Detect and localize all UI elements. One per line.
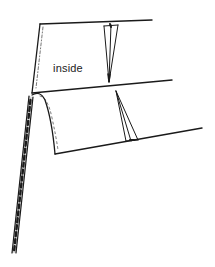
- lower-dart: [116, 91, 138, 141]
- stitched-seam-edge: [12, 96, 33, 253]
- upper-dart: [104, 24, 118, 82]
- garment-construction-diagram: [0, 0, 215, 267]
- lower-panel-flap: [32, 93, 202, 154]
- upper-panel: [32, 20, 172, 93]
- inside-label: inside: [53, 62, 83, 74]
